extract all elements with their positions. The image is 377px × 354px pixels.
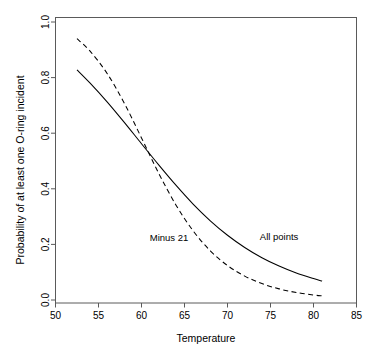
chart-container: 5055606570758085 0.00.20.40.60.81.0 Temp… — [0, 0, 377, 354]
y-tick-label: 1.0 — [40, 15, 51, 29]
y-tick-label: 0.6 — [40, 126, 51, 140]
y-tick-label: 0.4 — [40, 181, 51, 195]
x-tick-label: 75 — [265, 310, 277, 321]
x-tick-label: 70 — [222, 310, 234, 321]
series-annotation-all-points: All points — [260, 231, 299, 242]
y-tick-label: 0.0 — [40, 293, 51, 307]
series-annotation-minus-21: Minus 21 — [150, 232, 189, 243]
oring-probability-chart: 5055606570758085 0.00.20.40.60.81.0 Temp… — [0, 0, 377, 354]
y-axis-title: Probability of at least one O-ring incid… — [14, 75, 26, 264]
x-tick-label: 55 — [93, 310, 105, 321]
y-tick-label: 0.8 — [40, 70, 51, 84]
x-axis-title: Temperature — [177, 332, 236, 344]
y-tick-label: 0.2 — [40, 237, 51, 251]
x-tick-label: 80 — [308, 310, 320, 321]
x-tick-label: 50 — [50, 310, 62, 321]
x-tick-label: 60 — [136, 310, 148, 321]
x-tick-label: 65 — [179, 310, 191, 321]
chart-background — [0, 0, 377, 354]
x-tick-label: 85 — [351, 310, 363, 321]
